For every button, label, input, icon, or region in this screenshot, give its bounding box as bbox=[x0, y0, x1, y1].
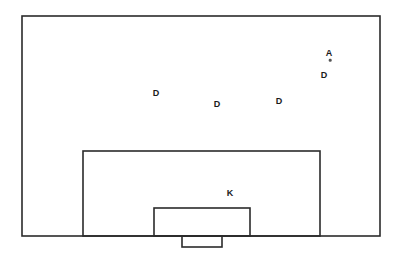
player-marker-defender-1: D bbox=[321, 70, 328, 80]
goal-area-rect bbox=[154, 208, 250, 236]
player-marker-keeper-1: K bbox=[227, 188, 234, 198]
penalty-area-rect bbox=[83, 151, 320, 236]
goal-mouth-rect bbox=[182, 236, 222, 247]
player-marker-defender-2: D bbox=[153, 88, 160, 98]
ball-icon bbox=[329, 59, 332, 62]
player-marker-defender-3: D bbox=[214, 99, 221, 109]
player-marker-defender-4: D bbox=[276, 96, 283, 106]
player-marker-attacker-1: A bbox=[326, 48, 333, 58]
pitch-diagram: A D D D D K bbox=[0, 0, 399, 256]
pitch-lines-svg bbox=[0, 0, 399, 256]
